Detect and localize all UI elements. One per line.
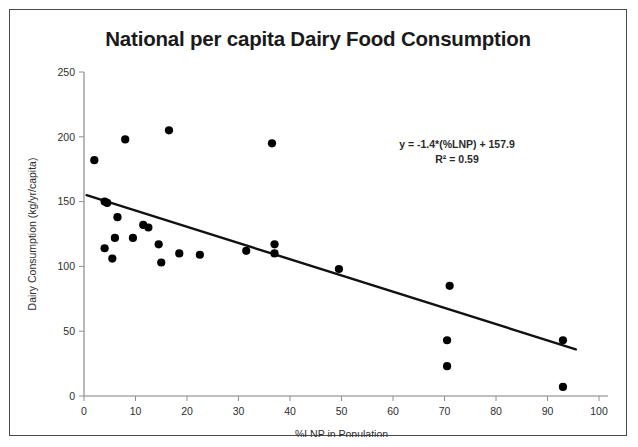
data-point[interactable] bbox=[175, 249, 183, 257]
y-tick-label: 150 bbox=[57, 195, 75, 207]
data-point[interactable] bbox=[90, 156, 98, 164]
data-point[interactable] bbox=[155, 240, 163, 248]
x-tick-label: 70 bbox=[439, 405, 451, 417]
data-point[interactable] bbox=[335, 265, 343, 273]
y-tick-label: 100 bbox=[57, 260, 75, 272]
data-point[interactable] bbox=[108, 255, 116, 263]
x-tick-label: 50 bbox=[336, 405, 348, 417]
x-axis-title: %LNP in Population bbox=[295, 428, 388, 437]
y-tick-label: 200 bbox=[57, 131, 75, 143]
data-point[interactable] bbox=[157, 258, 165, 266]
x-tick-label: 10 bbox=[130, 405, 142, 417]
x-tick-label: 100 bbox=[590, 405, 608, 417]
data-point[interactable] bbox=[443, 362, 451, 370]
y-tick-label: 0 bbox=[69, 390, 75, 402]
x-tick-label: 60 bbox=[387, 405, 399, 417]
x-tick-label: 40 bbox=[284, 405, 296, 417]
data-point[interactable] bbox=[270, 249, 278, 257]
data-point[interactable] bbox=[242, 247, 250, 255]
x-tick-label: 20 bbox=[181, 405, 193, 417]
data-point[interactable] bbox=[559, 383, 567, 391]
data-point[interactable] bbox=[111, 234, 119, 242]
y-tick-label: 250 bbox=[57, 66, 75, 78]
data-point[interactable] bbox=[121, 135, 129, 143]
data-point[interactable] bbox=[165, 126, 173, 134]
data-point[interactable] bbox=[101, 244, 109, 252]
x-tick-label: 0 bbox=[81, 405, 87, 417]
x-tick-label: 30 bbox=[233, 405, 245, 417]
data-point[interactable] bbox=[144, 223, 152, 231]
figure-frame: National per capita Dairy Food Consumpti… bbox=[9, 9, 627, 436]
scatter-plot: 0501001502002500102030405060708090100%LN… bbox=[10, 10, 628, 437]
data-point[interactable] bbox=[443, 336, 451, 344]
y-tick-label: 50 bbox=[63, 325, 75, 337]
data-point[interactable] bbox=[270, 240, 278, 248]
data-point[interactable] bbox=[129, 234, 137, 242]
data-point[interactable] bbox=[559, 336, 567, 344]
data-point[interactable] bbox=[113, 213, 121, 221]
data-point[interactable] bbox=[268, 139, 276, 147]
x-tick-label: 80 bbox=[490, 405, 502, 417]
data-point[interactable] bbox=[196, 251, 204, 259]
trend-line bbox=[87, 195, 576, 349]
data-point[interactable] bbox=[446, 282, 454, 290]
data-point[interactable] bbox=[103, 199, 111, 207]
trendline-equation-label: y = -1.4*(%LNP) + 157.9 bbox=[399, 138, 515, 150]
x-tick-label: 90 bbox=[542, 405, 554, 417]
y-axis-title: Dairy Consumption (kg/yr/capita) bbox=[26, 158, 38, 311]
r-squared-label: R² = 0.59 bbox=[435, 153, 479, 165]
